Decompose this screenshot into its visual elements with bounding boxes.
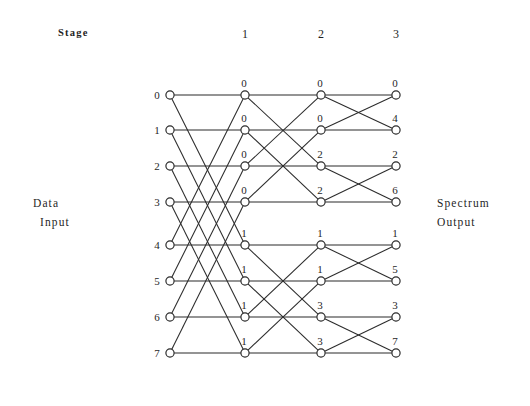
weight-s2-r3: 2	[317, 184, 323, 196]
node-c3-r7	[392, 349, 400, 357]
node-c3-r3	[392, 198, 400, 206]
node-c2-r7	[317, 349, 325, 357]
node-c1-r5	[241, 277, 249, 285]
weight-s2-r2: 2	[317, 148, 323, 160]
weight-s1-r3: 0	[241, 184, 247, 196]
weight-s3-r4: 1	[392, 227, 398, 239]
node-c2-r4	[317, 241, 325, 249]
weight-s3-r0: 0	[392, 77, 398, 89]
stage-word-label: Stage	[58, 27, 89, 38]
weight-s2-r5: 1	[317, 263, 323, 275]
node-c3-r5	[392, 277, 400, 285]
node-c1-r7	[241, 349, 249, 357]
weight-s3-r3: 6	[392, 184, 398, 196]
weight-s1-r0: 0	[241, 77, 247, 89]
input-index-1: 1	[154, 124, 160, 136]
edges-group	[172, 95, 392, 353]
node-c1-r3	[241, 198, 249, 206]
weight-s1-r4: 1	[241, 227, 247, 239]
node-c1-r1	[241, 126, 249, 134]
node-c1-r4	[241, 241, 249, 249]
node-c0-r0	[166, 91, 174, 99]
input-index-6: 6	[154, 311, 160, 323]
node-c0-r2	[166, 162, 174, 170]
stage-header-3: 3	[393, 27, 399, 41]
node-c2-r0	[317, 91, 325, 99]
node-c0-r1	[166, 126, 174, 134]
node-c3-r1	[392, 126, 400, 134]
weight-s1-r7: 1	[241, 335, 247, 347]
input-index-3: 3	[154, 196, 160, 208]
stage-header-1: 1	[242, 27, 248, 41]
weight-s3-r2: 2	[392, 148, 398, 160]
node-c1-r0	[241, 91, 249, 99]
input-index-7: 7	[154, 347, 160, 359]
signal-flow-graph: Stage 1 2 3 Data Input Spectrum Output 0…	[0, 0, 530, 406]
input-index-0: 0	[154, 89, 160, 101]
weight-s1-r5: 1	[241, 263, 247, 275]
weight-s2-r6: 3	[317, 299, 323, 311]
weight-s3-r6: 3	[392, 299, 398, 311]
weight-s1-r6: 1	[241, 299, 247, 311]
input-index-4: 4	[154, 239, 160, 251]
node-c0-r4	[166, 241, 174, 249]
node-c0-r7	[166, 349, 174, 357]
node-c1-r6	[241, 313, 249, 321]
data-input-label-line2: Input	[40, 216, 70, 229]
weight-s3-r5: 5	[392, 263, 398, 275]
input-index-2: 2	[154, 160, 160, 172]
fft-butterfly-diagram: Stage 1 2 3 Data Input Spectrum Output 0…	[0, 0, 530, 406]
weight-s3-r1: 4	[392, 112, 398, 124]
node-c3-r0	[392, 91, 400, 99]
node-c2-r2	[317, 162, 325, 170]
node-c2-r5	[317, 277, 325, 285]
node-c3-r2	[392, 162, 400, 170]
node-c1-r2	[241, 162, 249, 170]
node-c2-r1	[317, 126, 325, 134]
node-c0-r5	[166, 277, 174, 285]
weight-s2-r1: 0	[317, 112, 323, 124]
data-input-label-line1: Data	[33, 197, 59, 209]
weight-s2-r7: 3	[317, 335, 323, 347]
node-c3-r4	[392, 241, 400, 249]
spectrum-output-label-line1: Spectrum	[437, 197, 490, 210]
input-index-5: 5	[154, 275, 160, 287]
node-c2-r3	[317, 198, 325, 206]
node-c2-r6	[317, 313, 325, 321]
weights-group: 000011110022113304261537	[241, 77, 398, 347]
index-labels-group: 01234567	[154, 89, 160, 359]
node-c3-r6	[392, 313, 400, 321]
node-c0-r3	[166, 198, 174, 206]
weight-s2-r0: 0	[317, 77, 323, 89]
weight-s1-r2: 0	[241, 148, 247, 160]
node-c0-r6	[166, 313, 174, 321]
weight-s2-r4: 1	[317, 227, 323, 239]
stage-header-2: 2	[318, 27, 324, 41]
weight-s3-r7: 7	[392, 335, 398, 347]
weight-s1-r1: 0	[241, 112, 247, 124]
spectrum-output-label-line2: Output	[437, 216, 476, 229]
